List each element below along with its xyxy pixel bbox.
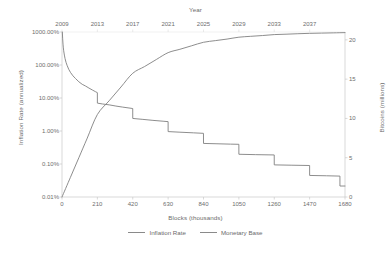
series-line-inflation-rate (62, 32, 345, 186)
legend-label: Monetary Base (221, 229, 263, 236)
legend-item-inflation-rate: Inflation Rate (128, 229, 185, 236)
legend-line-icon (128, 232, 145, 233)
axis-tickmarks (60, 30, 348, 200)
series-line-monetary-base (62, 33, 345, 197)
axis-lines (62, 32, 345, 197)
legend-item-monetary-base: Monetary Base (200, 229, 263, 236)
chart-legend: Inflation Rate Monetary Base (0, 229, 391, 236)
legend-label: Inflation Rate (149, 229, 185, 236)
bitcoin-inflation-chart: Year Blocks (thousands) Inflation Rate (… (0, 0, 391, 260)
plot-area (0, 0, 391, 260)
legend-line-icon (200, 232, 217, 233)
